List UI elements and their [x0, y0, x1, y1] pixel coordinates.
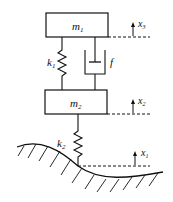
svg-text:k1: k1: [47, 56, 55, 70]
svg-text:x2: x2: [137, 95, 145, 107]
arrow-up-icon: [131, 99, 135, 104]
mass-m1-label: m: [72, 20, 80, 32]
svg-text:m2: m2: [70, 97, 82, 111]
displacement-x2: x2: [107, 95, 150, 114]
damper-label: f: [110, 56, 115, 68]
suspension-diagram: m1 x3 k1 f m2 x2: [0, 0, 173, 202]
arrow-up-icon: [133, 151, 137, 156]
mass-m1: m1: [46, 13, 108, 37]
svg-text:m1: m1: [72, 20, 83, 34]
mass-m2-sub: 2: [78, 103, 82, 111]
displacement-x1: x1: [78, 147, 150, 166]
mass-m1-sub: 1: [80, 26, 84, 34]
spring-k1: k1: [47, 37, 66, 90]
damper-f: f: [85, 37, 115, 90]
displacement-x3: x3: [108, 18, 150, 37]
svg-text:x3: x3: [137, 18, 145, 30]
svg-text:x1: x1: [140, 147, 148, 159]
svg-text:k2: k2: [57, 137, 66, 151]
mass-m2: m2: [45, 90, 107, 114]
mass-m2-label: m: [70, 97, 78, 109]
arrow-up-icon: [131, 22, 135, 27]
